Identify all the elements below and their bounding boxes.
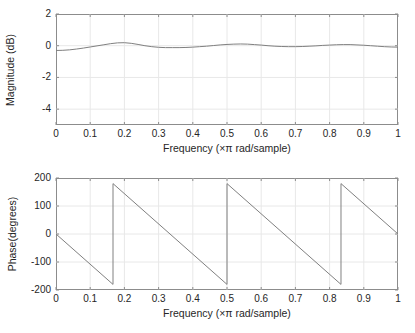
ytick-label: 200 bbox=[34, 173, 51, 183]
xtick-label: 0.4 bbox=[186, 129, 200, 139]
phase-segment bbox=[341, 184, 398, 234]
magnitude-xaxis-label: Frequency (×π rad/sample) bbox=[163, 142, 291, 154]
ytick-label: -2 bbox=[42, 72, 51, 82]
xtick-label: 1 bbox=[395, 129, 401, 139]
xtick-label: 0.2 bbox=[117, 294, 131, 304]
ytick-label: -4 bbox=[42, 104, 51, 114]
xtick-label: 0 bbox=[53, 294, 59, 304]
magnitude-plot-svg bbox=[56, 14, 398, 125]
xtick-label: 0.2 bbox=[117, 129, 131, 139]
xtick-label: 0.7 bbox=[288, 129, 302, 139]
xtick-label: 0.8 bbox=[323, 294, 337, 304]
xtick-label: 0.3 bbox=[152, 129, 166, 139]
ytick-label: 0 bbox=[45, 229, 51, 239]
xtick-label: 1 bbox=[395, 294, 401, 304]
xtick-label: 0.4 bbox=[186, 294, 200, 304]
xtick-label: 0 bbox=[53, 129, 59, 139]
phase-segment bbox=[56, 234, 113, 284]
xtick-label: 0.9 bbox=[357, 294, 371, 304]
xtick-label: 0.5 bbox=[220, 294, 234, 304]
xtick-label: 0.6 bbox=[254, 129, 268, 139]
xtick-label: 0.1 bbox=[83, 294, 97, 304]
phase-axes: 2001000-100-200 00.10.20.30.40.50.60.70.… bbox=[56, 178, 398, 290]
ytick-label: -100 bbox=[31, 257, 51, 267]
ytick-label: 100 bbox=[34, 201, 51, 211]
xtick-label: 0.5 bbox=[220, 129, 234, 139]
magnitude-yaxis-label: Magnitude (dB) bbox=[4, 15, 16, 125]
ytick-label: 2 bbox=[45, 9, 51, 19]
figure-canvas: 20-2-4 00.10.20.30.40.50.60.70.80.91 Fre… bbox=[0, 0, 415, 333]
phase-yaxis-label: Phase(degrees) bbox=[6, 178, 18, 290]
xtick-label: 0.6 bbox=[254, 294, 268, 304]
xtick-label: 0.7 bbox=[288, 294, 302, 304]
ytick-label: 0 bbox=[45, 41, 51, 51]
phase-plot-svg bbox=[56, 178, 398, 290]
xtick-label: 0.8 bbox=[323, 129, 337, 139]
magnitude-gridlines bbox=[56, 14, 398, 125]
xtick-label: 0.3 bbox=[152, 294, 166, 304]
xtick-label: 0.9 bbox=[357, 129, 371, 139]
xtick-label: 0.1 bbox=[83, 129, 97, 139]
phase-xaxis-label: Frequency (×π rad/sample) bbox=[163, 307, 291, 319]
magnitude-axes: 20-2-4 00.10.20.30.40.50.60.70.80.91 Fre… bbox=[56, 14, 398, 125]
ytick-label: -200 bbox=[31, 285, 51, 295]
